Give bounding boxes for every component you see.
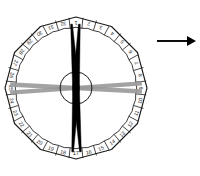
dial-numeral: 17	[73, 150, 79, 156]
arrow-head-icon	[187, 36, 196, 46]
direction-arrow	[157, 36, 196, 46]
diagram-canvas: 1234567891011121314151617181920212223242…	[0, 0, 200, 176]
dial-diagram: 1234567891011121314151617181920212223242…	[0, 0, 200, 176]
dial-numeral: 9	[138, 86, 144, 89]
dial-numeral: 1	[74, 20, 77, 26]
